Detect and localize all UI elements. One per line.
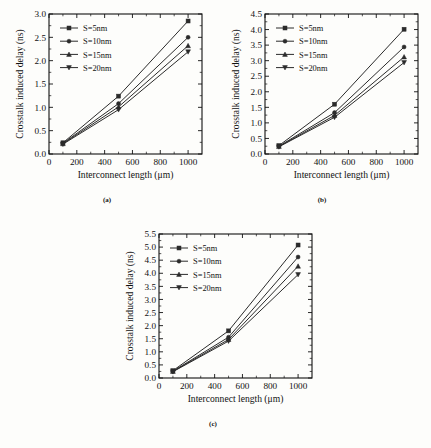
legend-label-s20nm: S=20nm: [193, 284, 222, 293]
legend-label-s20nm: S=20nm: [299, 64, 328, 73]
x-axis-tick-label: 200: [286, 157, 300, 167]
y-axis-tick-label: 3.0: [145, 295, 157, 305]
panel-caption-a: (a): [2, 196, 212, 204]
legend-label-s5nm: S=5nm: [193, 244, 218, 253]
x-axis-tick-label: 600: [126, 157, 140, 167]
y-axis-tick-label: 2.5: [145, 308, 157, 318]
plot-frame: [265, 14, 418, 154]
line-chart-c: 0.00.51.01.52.02.53.03.54.04.55.05.50200…: [104, 222, 322, 420]
y-axis-tick-label: 0.5: [145, 360, 157, 370]
y-axis-tick-label: 0.5: [35, 126, 47, 136]
data-point-marker-square: [283, 26, 287, 30]
y-axis-title: Crosstalk induced delay (ns): [124, 251, 136, 361]
legend-label-s10nm: S=10nm: [193, 257, 222, 266]
y-axis-tick-label: 0.5: [251, 134, 263, 144]
legend-label-s5nm: S=5nm: [299, 24, 324, 33]
panel-caption-c: (c): [104, 420, 322, 428]
y-axis-tick-label: 5.5: [145, 229, 157, 239]
y-axis-tick-label: 4.5: [145, 255, 157, 265]
y-axis-tick-label: 2.0: [251, 87, 263, 97]
x-axis-tick-label: 1000: [395, 157, 414, 167]
y-axis-tick-label: 1.5: [35, 79, 47, 89]
series-line-s20nm: [279, 63, 404, 147]
data-point-marker-circle: [283, 39, 287, 43]
data-point-marker-square: [333, 102, 337, 106]
x-axis-title: Interconnect length (μm): [294, 169, 390, 181]
data-point-marker-circle: [402, 45, 406, 49]
y-axis-tick-label: 3.5: [251, 40, 263, 50]
x-axis-tick-label: 200: [180, 381, 194, 391]
line-chart-a: 0.00.51.01.52.02.53.002004006008001000In…: [2, 4, 212, 196]
data-point-marker-square: [296, 243, 300, 247]
x-axis-tick-label: 200: [70, 157, 84, 167]
series-line-s5nm: [279, 29, 404, 145]
legend-label-s15nm: S=15nm: [193, 271, 222, 280]
y-axis-tick-label: 2.0: [145, 321, 157, 331]
y-axis-tick-label: 3.0: [35, 9, 47, 19]
legend-label-s5nm: S=5nm: [83, 24, 108, 33]
data-point-marker-circle: [67, 39, 71, 43]
data-point-marker-square: [67, 26, 71, 30]
y-axis-tick-label: 2.0: [35, 56, 47, 66]
data-point-marker-square: [402, 27, 406, 31]
legend-label-s10nm: S=10nm: [299, 37, 328, 46]
y-axis-tick-label: 3.5: [145, 282, 157, 292]
x-axis-title: Interconnect length (μm): [78, 169, 174, 181]
chart-panel-c: 0.00.51.01.52.02.53.03.54.04.55.05.50200…: [104, 222, 322, 424]
series-line-s10nm: [173, 257, 298, 371]
x-axis-tick-label: 400: [98, 157, 112, 167]
data-point-marker-circle: [177, 259, 181, 263]
series-line-s15nm: [279, 57, 404, 147]
y-axis-tick-label: 1.0: [251, 118, 263, 128]
x-axis-tick-label: 400: [314, 157, 328, 167]
y-axis-tick-label: 1.5: [251, 103, 263, 113]
x-axis-tick-label: 800: [263, 381, 277, 391]
x-axis-title: Interconnect length (μm): [188, 393, 284, 405]
x-axis-tick-label: 600: [236, 381, 250, 391]
y-axis-tick-label: 2.5: [251, 71, 263, 81]
chart-panel-b: 0.00.51.01.52.02.53.03.54.04.50200400600…: [216, 4, 428, 200]
series-line-s5nm: [63, 21, 188, 143]
y-axis-tick-label: 1.0: [145, 347, 157, 357]
figure-crosstalk-delay: 0.00.51.01.52.02.53.002004006008001000In…: [0, 0, 431, 448]
plot-frame: [49, 14, 202, 154]
x-axis-tick-label: 0: [47, 157, 52, 167]
data-point-marker-circle: [296, 255, 300, 259]
x-axis-tick-label: 0: [157, 381, 162, 391]
panel-caption-b: (b): [216, 196, 428, 204]
legend-label-s20nm: S=20nm: [83, 64, 112, 73]
chart-panel-a: 0.00.51.01.52.02.53.002004006008001000In…: [2, 4, 212, 200]
legend-label-s15nm: S=15nm: [299, 51, 328, 60]
x-axis-tick-label: 600: [342, 157, 356, 167]
data-point-marker-square: [177, 246, 181, 250]
y-axis-title: Crosstalk induced delay (ns): [14, 29, 26, 139]
line-chart-b: 0.00.51.01.52.02.53.03.54.04.50200400600…: [216, 4, 428, 196]
series-line-s15nm: [173, 266, 298, 371]
y-axis-title: Crosstalk induced delay (ns): [230, 29, 242, 139]
x-axis-tick-label: 800: [153, 157, 167, 167]
series-line-s5nm: [173, 245, 298, 371]
y-axis-tick-label: 3.0: [251, 56, 263, 66]
data-point-marker-triangle-down: [116, 108, 121, 112]
x-axis-tick-label: 800: [369, 157, 383, 167]
data-point-marker-square: [227, 329, 231, 333]
y-axis-tick-label: 0.0: [145, 373, 157, 383]
data-point-marker-square: [186, 19, 190, 23]
x-axis-tick-label: 400: [208, 381, 222, 391]
data-point-marker-circle: [186, 35, 190, 39]
y-axis-tick-label: 2.5: [35, 33, 47, 43]
y-axis-tick-label: 4.0: [251, 25, 263, 35]
legend-label-s10nm: S=10nm: [83, 37, 112, 46]
x-axis-tick-label: 1000: [179, 157, 198, 167]
legend-label-s15nm: S=15nm: [83, 51, 112, 60]
y-axis-tick-label: 0.0: [251, 149, 263, 159]
x-axis-tick-label: 0: [263, 157, 268, 167]
y-axis-tick-label: 1.5: [145, 334, 157, 344]
y-axis-tick-label: 4.0: [145, 268, 157, 278]
y-axis-tick-label: 1.0: [35, 103, 47, 113]
x-axis-tick-label: 1000: [289, 381, 308, 391]
data-point-marker-triangle-up: [296, 264, 301, 268]
data-point-marker-triangle-up: [186, 43, 191, 47]
data-point-marker-square: [117, 94, 121, 98]
y-axis-tick-label: 0.0: [35, 149, 47, 159]
